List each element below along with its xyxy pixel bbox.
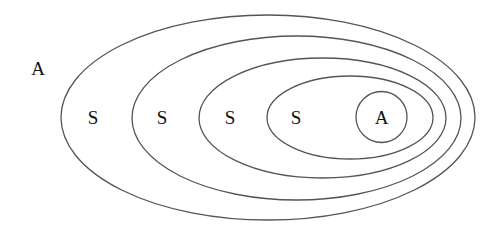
- nested-sets-diagram: A SSSS A: [0, 0, 501, 228]
- set-label-s-4: S: [291, 107, 302, 128]
- ellipse-level-1: [61, 15, 475, 220]
- set-label-s-2: S: [157, 107, 168, 128]
- inner-label-a: A: [375, 107, 389, 128]
- nested-ellipses: SSSS: [61, 15, 475, 220]
- ellipse-level-3: [199, 58, 446, 178]
- set-label-s-1: S: [88, 107, 99, 128]
- outer-label-a: A: [31, 58, 45, 79]
- set-label-s-3: S: [225, 107, 236, 128]
